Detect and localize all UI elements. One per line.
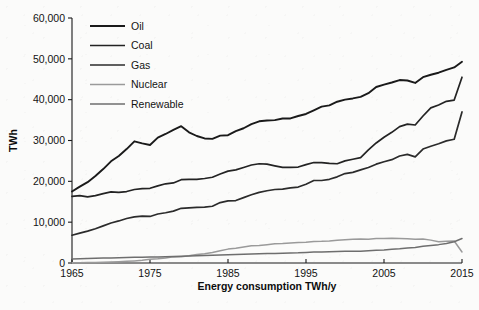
y-tick-label: 50,000 bbox=[33, 53, 65, 65]
series-line-renewable bbox=[72, 239, 462, 259]
series-layer bbox=[72, 62, 462, 263]
legend-label-gas: Gas bbox=[131, 59, 150, 71]
y-tick-label: 10,000 bbox=[33, 216, 65, 228]
y-axis-title: TWh bbox=[7, 129, 19, 152]
legend-label-coal: Coal bbox=[131, 39, 153, 51]
legend-label-renewable: Renewable bbox=[131, 98, 184, 110]
label-layer: Energy consumption TWh/yTWh bbox=[7, 129, 337, 292]
x-axis-title: Energy consumption TWh/y bbox=[198, 280, 337, 292]
x-tick-label: 1985 bbox=[216, 267, 240, 279]
y-tick-label: 20,000 bbox=[33, 175, 65, 187]
x-tick-label: 1995 bbox=[294, 267, 318, 279]
y-tick-label: 60,000 bbox=[33, 12, 65, 24]
series-line-gas bbox=[72, 112, 462, 235]
legend-label-nuclear: Nuclear bbox=[131, 78, 168, 90]
axis-spines bbox=[72, 18, 462, 263]
energy-consumption-line-chart: 010,00020,00030,00040,00050,00060,000196… bbox=[0, 0, 479, 310]
x-tick-label: 2005 bbox=[372, 267, 396, 279]
series-line-nuclear bbox=[72, 238, 462, 262]
x-tick-label: 1965 bbox=[60, 267, 84, 279]
chart-figure: 010,00020,00030,00040,00050,00060,000196… bbox=[0, 0, 479, 310]
y-tick-label: 40,000 bbox=[33, 93, 65, 105]
legend-layer: OilCoalGasNuclearRenewable bbox=[90, 20, 184, 110]
x-tick-label: 2015 bbox=[450, 267, 474, 279]
x-tick-label: 1975 bbox=[138, 267, 162, 279]
y-tick-label: 30,000 bbox=[33, 134, 65, 146]
legend-label-oil: Oil bbox=[131, 20, 144, 32]
series-line-coal bbox=[72, 77, 462, 197]
